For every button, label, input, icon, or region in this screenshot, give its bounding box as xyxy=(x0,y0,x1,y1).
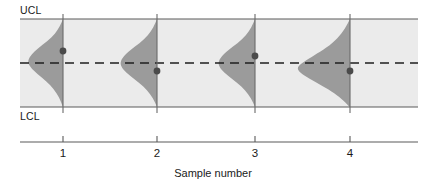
x-tick-label-2: 2 xyxy=(154,147,160,159)
control-chart-svg: UCL LCL 1 2 3 4 Sample number xyxy=(0,0,437,193)
x-axis-tick-labels: 1 2 3 4 xyxy=(60,147,354,159)
x-axis-ticks xyxy=(63,136,350,142)
ucl-label: UCL xyxy=(20,4,42,16)
x-tick-label-3: 3 xyxy=(252,147,258,159)
data-point-sample-1 xyxy=(60,48,67,55)
x-tick-label-1: 1 xyxy=(60,147,66,159)
data-point-sample-3 xyxy=(252,53,259,60)
data-point-sample-4 xyxy=(347,68,354,75)
lcl-label: LCL xyxy=(20,110,40,122)
x-tick-label-4: 4 xyxy=(347,147,354,159)
control-chart-figure: UCL LCL 1 2 3 4 Sample number xyxy=(0,0,437,193)
x-axis-title: Sample number xyxy=(174,167,252,179)
data-point-sample-2 xyxy=(154,68,161,75)
